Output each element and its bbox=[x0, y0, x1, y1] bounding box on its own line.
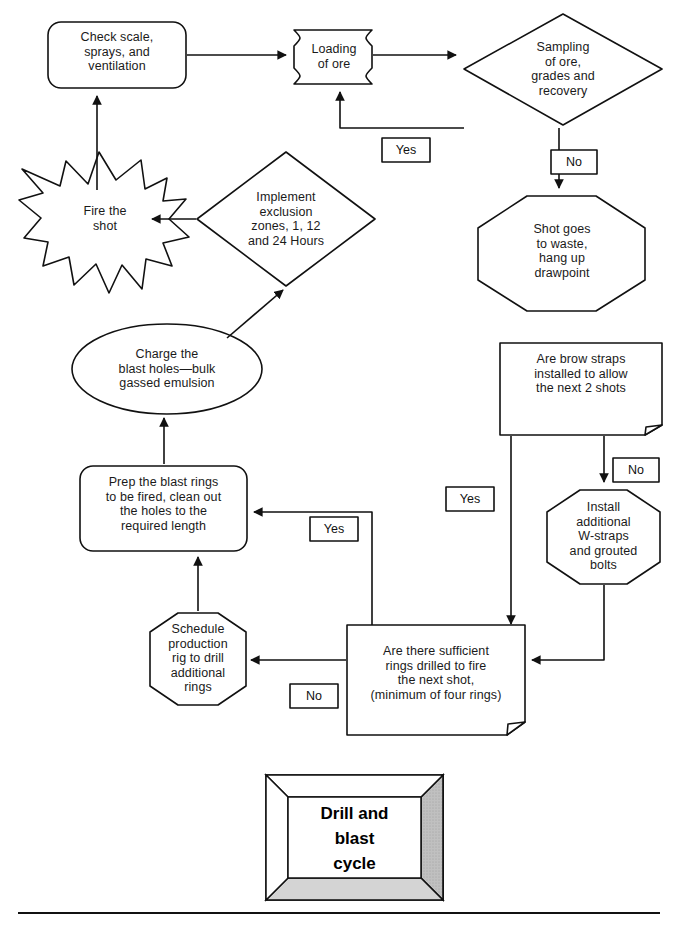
shape-charge-blast-holes bbox=[72, 324, 262, 414]
shape-implement-exclusion-zones bbox=[197, 152, 375, 286]
edge-install-to-sufficient bbox=[532, 585, 604, 660]
shape-prep-blast-rings bbox=[80, 466, 247, 551]
shape-fire-the-shot bbox=[19, 152, 189, 293]
edge-charge-to-exclusion bbox=[227, 290, 283, 338]
shape-loading-of-ore bbox=[294, 30, 372, 84]
shape-sufficient-rings bbox=[347, 625, 525, 735]
diagram-title: Drill and blast cycle bbox=[288, 801, 421, 876]
shape-shot-to-waste bbox=[478, 196, 645, 311]
edge-label-sufficient-rings-no: No bbox=[290, 684, 338, 708]
edge-label-sampling-no: No bbox=[551, 150, 597, 174]
edge-label-brow-straps-no: No bbox=[613, 458, 659, 482]
shape-install-w-straps bbox=[547, 490, 660, 584]
edge-label-sampling-yes: Yes bbox=[382, 138, 430, 162]
shape-schedule-production bbox=[150, 613, 246, 705]
shape-sampling-of-ore bbox=[464, 14, 662, 125]
shape-check-scale bbox=[48, 22, 186, 88]
shape-brow-straps bbox=[500, 343, 662, 435]
shape-sufficient-rings-fold bbox=[507, 722, 525, 735]
flowchart-canvas: Check scale, sprays, and ventilation Loa… bbox=[0, 0, 675, 925]
edge-label-brow-straps-yes: Yes bbox=[446, 487, 494, 511]
flowchart-shapes-layer bbox=[0, 0, 675, 925]
edge-sampling-yes-to-loading bbox=[340, 92, 464, 128]
shape-brow-straps-fold bbox=[645, 425, 662, 435]
edge-label-sufficient-rings-yes: Yes bbox=[310, 517, 358, 541]
